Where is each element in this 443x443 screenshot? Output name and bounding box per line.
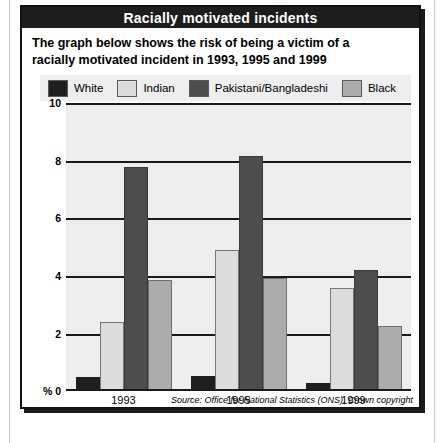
bar-1993-pakistani-bangladeshi [124, 167, 148, 389]
legend-swatch-white [48, 80, 68, 97]
bar-1999-white [306, 383, 330, 389]
y-axis: 10 8 6 4 2 % 0 [30, 103, 64, 403]
legend-item-black: Black [342, 80, 396, 97]
figure-title: Racially motivated incidents [124, 11, 318, 25]
legend-item-white: White [48, 80, 103, 97]
source-note: Source: Office for National Statistics (… [171, 395, 413, 405]
y-tick-8: 8 [55, 155, 61, 167]
page-margin-rule-left [9, 0, 10, 443]
bar-1999-black [378, 326, 402, 389]
bar-1999-pakistani-bangladeshi [354, 270, 378, 390]
bar-1995-pakistani-bangladeshi [239, 156, 263, 389]
plot-wrapper: 10 8 6 4 2 % 0 [30, 103, 411, 403]
legend-label-indian: Indian [143, 82, 174, 94]
x-label-1993: 1993 [66, 392, 181, 408]
bar-1995-indian [215, 250, 239, 390]
subtitle-line-2: racially motivated incident in 1993, 199… [32, 52, 409, 69]
bar-1995-white [191, 376, 215, 389]
chart-legend: White Indian Pakistani/Bangladeshi Black [40, 75, 411, 101]
bar-1993-indian [100, 322, 124, 390]
bar-group-1999 [296, 105, 411, 389]
legend-swatch-pakistani-bangladeshi [189, 80, 209, 97]
subtitle-line-1: The graph below shows the risk of being … [32, 35, 409, 52]
legend-swatch-indian [117, 80, 137, 97]
figure-panel: Racially motivated incidents The graph b… [20, 5, 421, 409]
legend-label-pakistani-bangladeshi: Pakistani/Bangladeshi [215, 82, 328, 94]
y-tick-2: 2 [55, 328, 61, 340]
legend-label-black: Black [368, 82, 396, 94]
legend-item-pakistani-bangladeshi: Pakistani/Bangladeshi [189, 80, 328, 97]
legend-item-indian: Indian [117, 80, 174, 97]
bar-1993-black [148, 280, 172, 389]
y-tick-6: 6 [55, 212, 61, 224]
bar-1999-indian [330, 288, 354, 389]
legend-label-white: White [74, 82, 103, 94]
page-margin-rule-right [434, 0, 435, 443]
legend-swatch-black [342, 80, 362, 97]
plot-area [66, 103, 411, 391]
bar-1993-white [76, 377, 100, 389]
y-tick-4: 4 [55, 270, 61, 282]
bar-1995-black [263, 278, 287, 389]
y-tick-10: 10 [49, 97, 61, 109]
bar-groups [66, 105, 411, 389]
figure-title-bar: Racially motivated incidents [22, 7, 419, 28]
figure-subtitle: The graph below shows the risk of being … [22, 28, 419, 70]
y-tick-0: % 0 [43, 385, 61, 397]
bar-group-1993 [66, 105, 181, 389]
bar-group-1995 [181, 105, 296, 389]
